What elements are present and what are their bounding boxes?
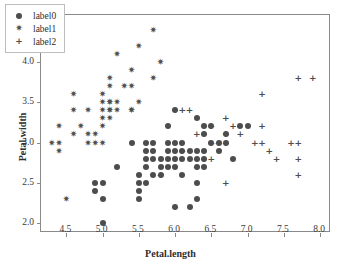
data-point (172, 140, 178, 146)
data-point (165, 123, 171, 129)
data-point: + (178, 146, 187, 155)
data-point: ✷ (91, 130, 100, 139)
data-point (223, 140, 229, 146)
data-point: ✷ (84, 106, 93, 115)
data-point (194, 180, 200, 186)
data-point (165, 148, 171, 154)
data-point: ✷ (91, 138, 100, 147)
data-point: + (236, 130, 245, 139)
y-tick (37, 183, 41, 184)
data-point: ✷ (105, 106, 114, 115)
data-point (165, 164, 171, 170)
data-point (194, 115, 200, 121)
data-point: ✷ (105, 106, 114, 115)
data-point: ✷ (105, 73, 114, 82)
y-tick (37, 223, 41, 224)
data-point: + (250, 138, 259, 147)
data-point: ✷ (127, 106, 136, 115)
data-point (172, 164, 178, 170)
data-point: + (272, 154, 281, 163)
data-point (179, 140, 185, 146)
data-point: ✷ (120, 82, 129, 91)
data-point: + (294, 154, 303, 163)
data-point (150, 148, 156, 154)
data-point: + (258, 122, 267, 131)
data-point (143, 148, 149, 154)
data-point: + (258, 90, 267, 99)
data-point (150, 172, 156, 178)
data-point: ✷ (55, 138, 64, 147)
data-point: + (200, 122, 209, 131)
data-point (201, 131, 207, 137)
data-point (158, 164, 164, 170)
data-point (187, 204, 193, 210)
data-point: + (192, 130, 201, 139)
data-point: + (207, 122, 216, 131)
data-point (179, 148, 185, 154)
data-point: + (192, 154, 201, 163)
y-tick (37, 143, 41, 144)
data-point: + (200, 130, 209, 139)
data-point: ✷ (98, 106, 107, 115)
x-tick-label: 6.5 (204, 224, 216, 234)
data-point: + (221, 130, 230, 139)
data-point: + (207, 138, 216, 147)
data-point (92, 180, 98, 186)
data-point (194, 196, 200, 202)
data-point: + (287, 138, 296, 147)
data-point (143, 164, 149, 170)
legend-item-label0[interactable]: label0 (11, 9, 56, 22)
data-point: ✷ (134, 41, 143, 50)
data-point (237, 123, 243, 129)
data-point: + (214, 138, 223, 147)
data-point (100, 196, 106, 202)
data-point: ✷ (47, 138, 56, 147)
star-marker-icon: ✷ (11, 24, 27, 33)
data-point (187, 148, 193, 154)
y-tick (37, 62, 41, 63)
data-point: ✷ (134, 98, 143, 107)
data-point (172, 148, 178, 154)
data-point (179, 172, 185, 178)
x-tick-label: 6.0 (168, 224, 180, 234)
data-point: ✷ (105, 82, 114, 91)
data-point (172, 107, 178, 113)
data-point: + (171, 203, 180, 212)
data-point (158, 172, 164, 178)
data-point: + (192, 162, 201, 171)
data-point (179, 156, 185, 162)
data-point: ✷ (149, 73, 158, 82)
data-point (92, 188, 98, 194)
data-point (201, 123, 207, 129)
data-point: ✷ (105, 98, 114, 107)
data-point: ✷ (113, 106, 122, 115)
data-point: + (294, 138, 303, 147)
data-point (136, 196, 142, 202)
y-tick (37, 102, 41, 103)
data-point (172, 156, 178, 162)
data-point (201, 156, 207, 162)
data-point (143, 140, 149, 146)
data-point (136, 172, 142, 178)
y-tick-label: 3.5 (22, 96, 34, 106)
data-point: + (294, 73, 303, 82)
data-point (230, 156, 236, 162)
data-point (165, 156, 171, 162)
data-point: ✷ (69, 130, 78, 139)
data-point (114, 164, 120, 170)
data-point (208, 123, 214, 129)
legend-item-label1[interactable]: ✷label1 (11, 22, 56, 35)
y-tick-label: 4.0 (22, 56, 34, 66)
data-point: ✷ (127, 106, 136, 115)
legend[interactable]: label0✷label1+label2 (5, 4, 65, 53)
data-point: + (207, 154, 216, 163)
x-tick-label: 7.5 (277, 224, 289, 234)
data-point (194, 148, 200, 154)
data-point (150, 140, 156, 146)
data-point (143, 180, 149, 186)
legend-item-label2[interactable]: +label2 (11, 35, 56, 48)
data-point (208, 140, 214, 146)
data-point: + (221, 178, 230, 187)
data-point: + (294, 170, 303, 179)
plot-area: ✷✷✷✷✷✷✷✷✷✷✷✷✷✷✷✷✷✷✷✷✷✷✷✷✷✷✷✷✷✷✷✷✷✷✷✷✷✷✷✷… (40, 14, 330, 232)
